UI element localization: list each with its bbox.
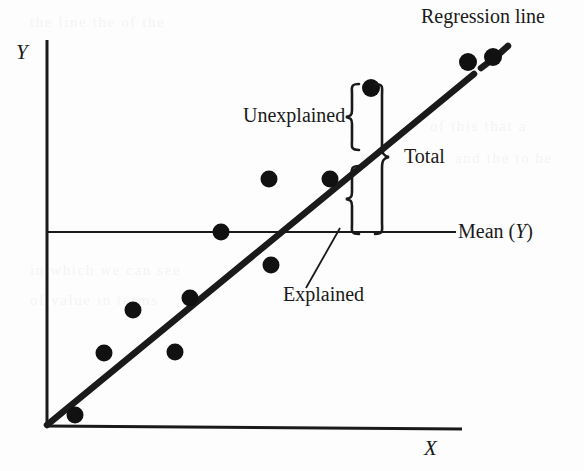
unexplained-label: Unexplained <box>243 104 345 127</box>
y-axis-label: Y <box>16 40 28 65</box>
explained-label: Explained <box>283 283 364 306</box>
data-point <box>263 257 280 274</box>
data-point <box>484 48 502 66</box>
data-point <box>182 290 199 307</box>
data-point-highlighted <box>362 79 380 97</box>
explained-leader-line <box>306 228 340 288</box>
mean-line-label: Mean (Y) <box>458 220 533 243</box>
data-point <box>167 344 184 361</box>
data-point <box>322 171 339 188</box>
data-point <box>213 224 230 241</box>
regression-decomposition-figure: the line the of the of this that a and t… <box>0 0 584 471</box>
regression-line <box>47 46 508 425</box>
data-point <box>96 345 113 362</box>
regression-line-label: Regression line <box>421 5 545 28</box>
data-point <box>459 53 477 71</box>
mean-label-variable: Y <box>515 220 526 242</box>
x-axis <box>46 426 462 429</box>
mean-label-suffix: ) <box>526 220 533 242</box>
data-point <box>125 302 142 319</box>
total-label: Total <box>404 145 445 168</box>
total-brace <box>375 84 389 234</box>
data-point <box>67 407 84 424</box>
x-axis-label: X <box>424 436 437 461</box>
unexplained-brace <box>346 84 359 150</box>
data-point <box>261 171 278 188</box>
mean-label-prefix: Mean ( <box>458 220 515 242</box>
